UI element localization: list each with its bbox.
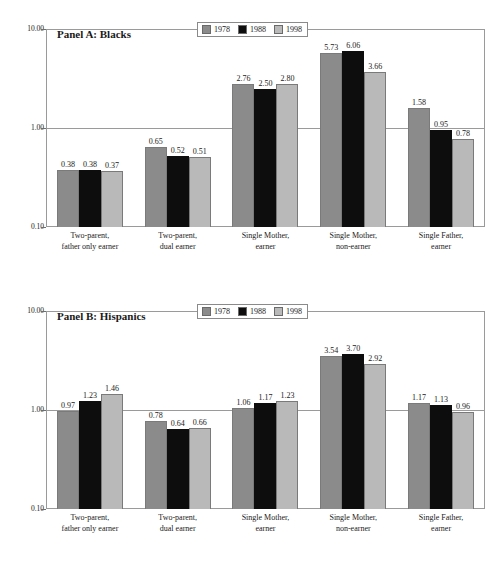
x-axis-category-label: Single Mother,non-earner <box>309 513 397 534</box>
legend-item: 1998 <box>274 25 302 34</box>
legend-label: 1998 <box>286 25 302 34</box>
chart-panel-b: 10.001.000.100.971.231.460.780.640.661.0… <box>0 282 503 564</box>
panel-title: Panel B: Hispanics <box>57 310 146 323</box>
legend-swatch <box>274 307 283 316</box>
legend-swatch <box>274 25 283 34</box>
x-axis-labels: Two-parent,father only earnerTwo-parent,… <box>46 231 485 252</box>
legend-label: 1988 <box>250 307 266 316</box>
category-line-1: Two-parent, <box>158 231 197 240</box>
legend-item: 1998 <box>274 307 302 316</box>
x-axis-category-label: Two-parent,father only earner <box>46 513 134 534</box>
category-line-2: earner <box>222 242 310 253</box>
x-axis-category-label: Two-parent,dual earner <box>134 231 222 252</box>
x-axis-category-label: Single Father,earner <box>397 513 485 534</box>
legend-swatch <box>202 25 211 34</box>
category-line-2: father only earner <box>46 524 134 535</box>
category-line-1: Single Father, <box>419 231 464 240</box>
category-line-2: earner <box>397 524 485 535</box>
legend-label: 1988 <box>250 25 266 34</box>
plot-area <box>46 29 485 227</box>
plot-area <box>46 311 485 509</box>
legend-swatch <box>238 25 247 34</box>
legend-item: 1978 <box>202 307 230 316</box>
category-line-2: dual earner <box>134 242 222 253</box>
category-line-1: Two-parent, <box>158 513 197 522</box>
category-line-1: Single Father, <box>419 513 464 522</box>
category-line-1: Two-parent, <box>71 231 110 240</box>
x-axis-category-label: Single Mother,earner <box>222 513 310 534</box>
category-line-1: Single Mother, <box>242 231 290 240</box>
category-line-2: dual earner <box>134 524 222 535</box>
chart-panel-a: 10.001.000.100.380.380.370.650.520.512.7… <box>0 0 503 282</box>
category-line-2: earner <box>222 524 310 535</box>
legend-swatch <box>202 307 211 316</box>
gridline-one <box>47 410 484 411</box>
category-line-1: Single Mother, <box>329 231 377 240</box>
category-line-2: non-earner <box>309 242 397 253</box>
legend-label: 1998 <box>286 307 302 316</box>
category-line-1: Single Mother, <box>329 513 377 522</box>
chart-legend: 197819881998 <box>197 22 308 37</box>
legend-label: 1978 <box>214 25 230 34</box>
x-axis-category-label: Single Mother,earner <box>222 231 310 252</box>
category-line-1: Two-parent, <box>71 513 110 522</box>
panel-title: Panel A: Blacks <box>57 28 131 41</box>
chart-legend: 197819881998 <box>197 304 308 319</box>
x-axis-category-label: Single Father,earner <box>397 231 485 252</box>
gridline-one <box>47 128 484 129</box>
y-axis: 10.001.000.10 <box>0 282 46 538</box>
category-line-2: earner <box>397 242 485 253</box>
legend-item: 1978 <box>202 25 230 34</box>
y-axis: 10.001.000.10 <box>0 0 46 256</box>
category-line-1: Single Mother, <box>242 513 290 522</box>
category-line-2: non-earner <box>309 524 397 535</box>
y-axis-tick-mark <box>41 227 46 228</box>
x-axis-category-label: Single Mother,non-earner <box>309 231 397 252</box>
x-axis-labels: Two-parent,father only earnerTwo-parent,… <box>46 513 485 534</box>
category-line-2: father only earner <box>46 242 134 253</box>
x-axis-category-label: Two-parent,dual earner <box>134 513 222 534</box>
legend-swatch <box>238 307 247 316</box>
x-axis-category-label: Two-parent,father only earner <box>46 231 134 252</box>
legend-label: 1978 <box>214 307 230 316</box>
y-axis-tick-mark <box>41 509 46 510</box>
legend-item: 1988 <box>238 25 266 34</box>
legend-item: 1988 <box>238 307 266 316</box>
